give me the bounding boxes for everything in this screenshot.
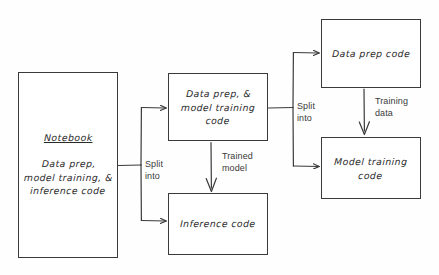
data-prep-model-training-label: Data prep, & model training code	[180, 87, 256, 128]
data-prep-code-label: Data prep code	[332, 47, 411, 61]
notebook-heading: Notebook	[43, 132, 92, 143]
model-training-code-label: Model training code	[334, 155, 408, 182]
notebook-body: Data prep, model training, & inference c…	[23, 157, 113, 198]
diagram-canvas: Notebook Data prep, model training, & in…	[0, 0, 439, 275]
model-training-code-box[interactable]: Model training code	[321, 137, 421, 199]
split-into-right-label: Split into	[297, 101, 315, 124]
split-into-left-label: Split into	[145, 159, 163, 182]
training-data-label: Training data	[375, 96, 408, 119]
inference-code-label: Inference code	[180, 217, 256, 231]
notebook-box[interactable]: Notebook Data prep, model training, & in…	[18, 72, 118, 258]
data-prep-code-box[interactable]: Data prep code	[321, 19, 421, 88]
inference-code-box[interactable]: Inference code	[168, 193, 268, 255]
notebook-content: Notebook Data prep, model training, & in…	[24, 132, 113, 198]
data-prep-model-training-box[interactable]: Data prep, & model training code	[168, 73, 268, 141]
edge-trained-model	[206, 143, 216, 192]
edge-training-data	[359, 89, 369, 135]
trained-model-label: Trained model	[222, 151, 253, 174]
